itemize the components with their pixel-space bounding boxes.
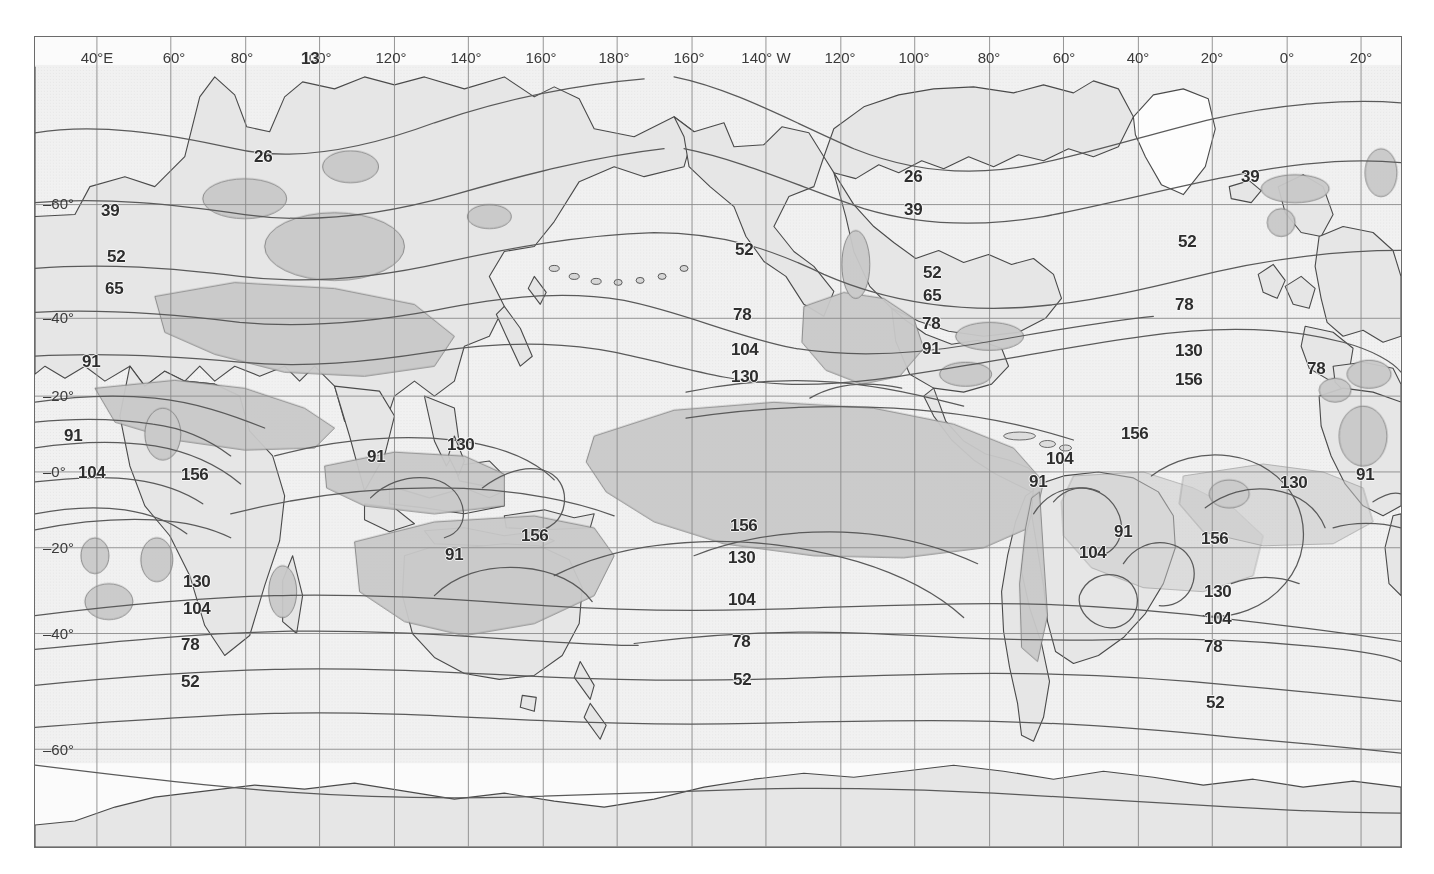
lat-tick-label: –20° <box>43 539 74 556</box>
contour-label: 130 <box>1204 582 1231 602</box>
contour-label: 130 <box>1280 473 1307 493</box>
lon-tick-label: 160° <box>525 49 556 66</box>
contour-label: 78 <box>1204 637 1222 657</box>
contour-label: 104 <box>731 340 758 360</box>
contour-label: 52 <box>735 240 753 260</box>
contour-label: 78 <box>732 632 750 652</box>
lon-tick-label: 0° <box>1280 49 1294 66</box>
lon-tick-label: 100° <box>898 49 929 66</box>
lon-tick-label: 40° <box>1127 49 1150 66</box>
contour-label: 39 <box>101 201 119 221</box>
lon-tick-label: 20° <box>1201 49 1224 66</box>
contour-label: 91 <box>64 426 82 446</box>
contour-label: 130 <box>183 572 210 592</box>
contour-label: 104 <box>78 463 105 483</box>
contour-label: 156 <box>1121 424 1148 444</box>
contour-label: 52 <box>733 670 751 690</box>
lat-tick-label: –60° <box>43 741 74 758</box>
contour-label: 104 <box>183 599 210 619</box>
contour-label: 130 <box>447 435 474 455</box>
contour-label: 156 <box>1201 529 1228 549</box>
contour-label: 26 <box>904 167 922 187</box>
contour-label: 78 <box>1307 359 1325 379</box>
lon-tick-label: 140° W <box>741 49 790 66</box>
lat-tick-label: –20° <box>43 387 74 404</box>
lon-tick-label: 20° <box>1350 49 1373 66</box>
contour-label: 39 <box>1241 167 1259 187</box>
contour-label: 156 <box>1175 370 1202 390</box>
contour-label: 52 <box>1178 232 1196 252</box>
contour-label: 91 <box>367 447 385 467</box>
contour-label: 78 <box>1175 295 1193 315</box>
map-page: 40°E 60° 80° 100° 120° 140° 160° 180° 16… <box>0 0 1434 874</box>
map-frame: 40°E 60° 80° 100° 120° 140° 160° 180° 16… <box>34 36 1402 848</box>
contour-label: 156 <box>521 526 548 546</box>
lon-tick-label: 140° <box>450 49 481 66</box>
contour-label: 130 <box>731 367 758 387</box>
lat-tick-label: –40° <box>43 309 74 326</box>
contour-label: 130 <box>728 548 755 568</box>
contour-label: 104 <box>1079 543 1106 563</box>
contour-label: 78 <box>181 635 199 655</box>
lat-tick-label: –40° <box>43 625 74 642</box>
lat-tick-label: –0° <box>43 463 66 480</box>
contour-label: 91 <box>1029 472 1047 492</box>
contour-label: 13 <box>301 49 319 69</box>
lon-tick-label: 160° <box>673 49 704 66</box>
contour-label: 26 <box>254 147 272 167</box>
contour-label: 52 <box>923 263 941 283</box>
contour-label: 39 <box>904 200 922 220</box>
lon-tick-label: 60° <box>1053 49 1076 66</box>
lon-tick-label: 40°E <box>81 49 114 66</box>
lon-tick-label: 180° <box>598 49 629 66</box>
contour-label: 156 <box>181 465 208 485</box>
contour-label: 65 <box>923 286 941 306</box>
contour-label: 91 <box>1356 465 1374 485</box>
contour-label: 156 <box>730 516 757 536</box>
lon-tick-label: 120° <box>824 49 855 66</box>
lon-tick-label: 60° <box>163 49 186 66</box>
contour-label: 91 <box>82 352 100 372</box>
contour-label: 104 <box>1204 609 1231 629</box>
contour-label: 65 <box>105 279 123 299</box>
lon-tick-label: 120° <box>375 49 406 66</box>
contour-label: 91 <box>445 545 463 565</box>
contour-label: 104 <box>728 590 755 610</box>
contour-label: 104 <box>1046 449 1073 469</box>
contour-label: 52 <box>181 672 199 692</box>
lat-tick-label: –60° <box>43 195 74 212</box>
map-canvas <box>35 37 1401 847</box>
contour-label: 52 <box>107 247 125 267</box>
contour-label: 78 <box>733 305 751 325</box>
contour-label: 78 <box>922 314 940 334</box>
lon-tick-label: 80° <box>978 49 1001 66</box>
contour-label: 130 <box>1175 341 1202 361</box>
contour-label: 91 <box>1114 522 1132 542</box>
contour-label: 91 <box>922 339 940 359</box>
contour-label: 52 <box>1206 693 1224 713</box>
lon-tick-label: 80° <box>231 49 254 66</box>
